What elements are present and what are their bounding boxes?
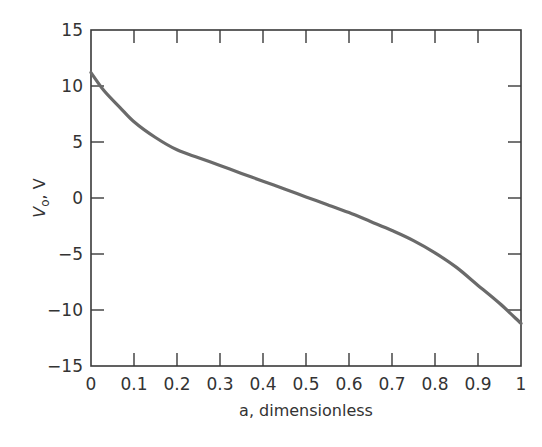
x-tick-label: 0.4 (249, 374, 276, 394)
x-tick-label: 1 (516, 374, 527, 394)
y-axis-label: Vo, V (30, 178, 52, 217)
x-tick-label: 0.9 (464, 374, 491, 394)
y-tick-label: −15 (47, 356, 83, 376)
chart: 00.10.20.30.40.50.60.70.80.91151050−5−10… (0, 0, 542, 447)
x-tick-label: 0.1 (120, 374, 147, 394)
x-axis-label: a, dimensionless (239, 401, 373, 420)
y-tick-label: 10 (61, 76, 83, 96)
x-tick-label: 0.6 (335, 374, 362, 394)
y-tick-label: 0 (72, 188, 83, 208)
y-tick-label: −10 (47, 300, 83, 320)
x-tick-label: 0.3 (206, 374, 233, 394)
x-tick-label: 0.5 (292, 374, 319, 394)
y-tick-label: 15 (61, 20, 83, 40)
x-tick-label: 0.2 (163, 374, 190, 394)
y-axis-label-sub: o (38, 199, 52, 206)
y-tick-label: 5 (72, 132, 83, 152)
x-tick-label: 0.7 (378, 374, 405, 394)
y-tick-label: −5 (58, 244, 83, 264)
x-tick-label: 0.8 (421, 374, 448, 394)
x-tick-label: 0 (86, 374, 97, 394)
svg-text:Vo, V: Vo, V (30, 178, 52, 217)
series-vo-line (91, 73, 521, 324)
tick-labels: 00.10.20.30.40.50.60.70.80.91151050−5−10… (47, 20, 526, 394)
y-axis-label-unit: , V (30, 178, 49, 199)
